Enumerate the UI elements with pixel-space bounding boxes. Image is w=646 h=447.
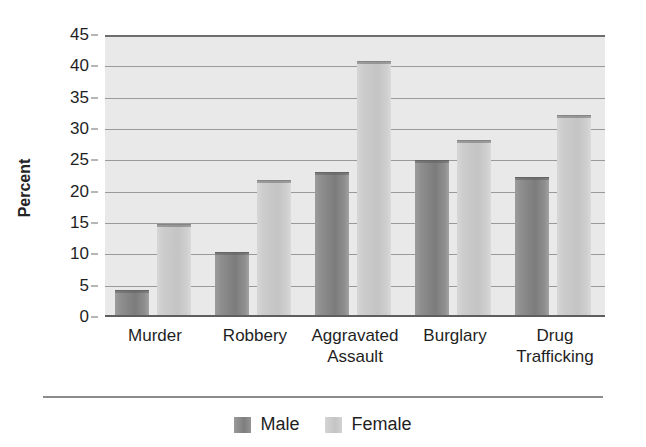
y-axis-tick-labels: 051015202530354045 xyxy=(46,35,98,317)
y-axis-tick-label: 5 xyxy=(45,276,89,296)
y-axis-tick-label: 45 xyxy=(45,25,89,45)
legend-label: Male xyxy=(260,414,299,435)
y-axis-tick-label: 30 xyxy=(45,119,89,139)
plot-area xyxy=(105,35,605,317)
y-axis-tick-label: 20 xyxy=(45,182,89,202)
y-axis-tick-label: 10 xyxy=(45,244,89,264)
bar-male xyxy=(215,252,249,317)
bar-group xyxy=(305,35,405,317)
legend-item-male: Male xyxy=(234,414,299,435)
chart-legend: MaleFemale xyxy=(0,414,646,435)
bar-male xyxy=(415,160,449,317)
bar-group xyxy=(405,35,505,317)
x-axis-category-label: Robbery xyxy=(205,322,305,380)
bar-female xyxy=(357,61,391,317)
female-swatch xyxy=(325,417,342,433)
x-axis-category-label: DrugTrafficking xyxy=(505,322,605,380)
bar-group xyxy=(505,35,605,317)
y-axis-tick-label: 40 xyxy=(45,56,89,76)
bar-male xyxy=(315,172,349,317)
y-axis-title: Percent xyxy=(16,128,34,248)
bar-female xyxy=(157,224,191,317)
bar-female xyxy=(557,115,591,317)
y-axis-tick-mark xyxy=(91,254,98,255)
bar-male xyxy=(515,177,549,317)
legend-label: Female xyxy=(351,414,411,435)
y-axis-tick-mark xyxy=(91,285,98,286)
x-axis-baseline xyxy=(105,315,605,317)
y-axis-tick-label: 15 xyxy=(45,213,89,233)
y-axis-tick-mark xyxy=(91,129,98,130)
y-axis-tick-mark xyxy=(91,223,98,224)
x-axis-category-label: Murder xyxy=(105,322,205,380)
x-axis-category-label: AggravatedAssault xyxy=(305,322,405,380)
y-axis-tick-mark xyxy=(91,191,98,192)
bar-female xyxy=(257,180,291,317)
bar-female xyxy=(457,140,491,317)
bar-group xyxy=(105,35,205,317)
y-axis-tick-mark xyxy=(91,160,98,161)
x-axis-category-labels: MurderRobberyAggravatedAssaultBurglaryDr… xyxy=(105,322,605,380)
bar-group xyxy=(205,35,305,317)
bar-chart-figure: Percent 051015202530354045 MurderRobbery… xyxy=(0,0,646,447)
legend-item-female: Female xyxy=(325,414,411,435)
legend-divider xyxy=(43,396,603,398)
y-axis-tick-label: 25 xyxy=(45,150,89,170)
y-axis-tick-mark xyxy=(91,66,98,67)
y-axis-tick-mark xyxy=(91,97,98,98)
y-axis-tick-label: 35 xyxy=(45,88,89,108)
y-axis-tick-label: 0 xyxy=(45,307,89,327)
bar-groups xyxy=(105,35,605,317)
y-axis-tick-mark xyxy=(91,35,98,36)
x-axis-category-label: Burglary xyxy=(405,322,505,380)
male-swatch xyxy=(234,417,251,433)
y-axis-tick-mark xyxy=(91,317,98,318)
bar-male xyxy=(115,290,149,317)
